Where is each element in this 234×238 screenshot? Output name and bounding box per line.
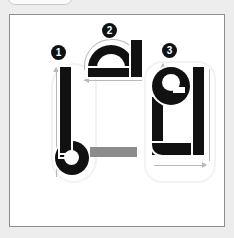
cut-off-pill-above-card[interactable]	[8, 0, 72, 5]
glyph-3-stem-guide	[209, 69, 210, 161]
stroke-badge-3[interactable]: 3	[162, 43, 177, 58]
glyph-2-baseline-arrow-icon	[84, 77, 89, 83]
glyph-3-counter	[162, 74, 180, 91]
glyph-1-counter	[64, 150, 79, 165]
glyph-1-arrow-icon	[53, 67, 59, 72]
glyph-stroke-3[interactable]: 3	[140, 43, 218, 189]
glyph-3-baseline-arrow-icon	[202, 162, 207, 168]
stroke-badge-2[interactable]: 2	[102, 23, 117, 38]
stroke-order-card: 1 2 3	[9, 14, 225, 227]
glyph-2-baseline-guide	[84, 80, 142, 81]
gray-dash-separator	[90, 147, 137, 157]
glyph-2-stem	[131, 40, 142, 77]
stroke-badge-1[interactable]: 1	[51, 45, 66, 60]
glyph-1-stem	[60, 67, 71, 153]
glyph-3-baseline-guide	[154, 165, 206, 166]
glyph-3-stem	[193, 67, 204, 155]
